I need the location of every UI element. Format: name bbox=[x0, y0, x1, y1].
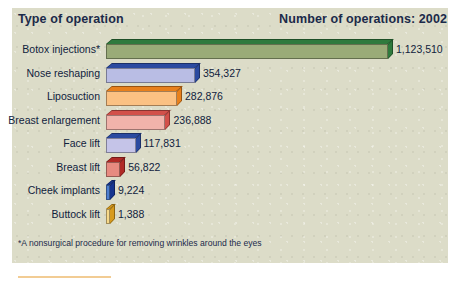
bar-3d[interactable] bbox=[106, 68, 195, 83]
bar-category-label: Face lift bbox=[0, 137, 100, 149]
bar-category-label: Liposuction bbox=[0, 90, 100, 102]
bar-value-label: 1,388 bbox=[118, 208, 144, 220]
chart-screenshot: Type of operation Number of operations: … bbox=[0, 0, 461, 287]
bar-side-face bbox=[110, 203, 115, 223]
bar-3d[interactable] bbox=[106, 185, 110, 200]
bar-side-face bbox=[110, 180, 115, 200]
bar-value-label: 56,822 bbox=[128, 161, 160, 173]
chart-row: Buttock lift1,388 bbox=[0, 203, 436, 225]
bar-value-label: 236,888 bbox=[173, 114, 211, 126]
bar-category-label: Cheek implants bbox=[0, 184, 100, 196]
bar-value-label: 9,224 bbox=[118, 184, 144, 196]
bar-value-label: 282,876 bbox=[185, 90, 223, 102]
bar-top-face bbox=[106, 110, 171, 115]
bar-front-face bbox=[106, 68, 195, 83]
bar-3d[interactable] bbox=[106, 138, 136, 153]
bar-3d[interactable] bbox=[106, 115, 165, 130]
chart-footnote: *A nonsurgical procedure for removing wr… bbox=[18, 238, 262, 248]
bar-top-face bbox=[106, 39, 394, 44]
chart-header: Type of operation Number of operations: … bbox=[0, 12, 461, 32]
decorative-orange-rule bbox=[18, 276, 111, 278]
bar-top-face bbox=[106, 86, 183, 91]
bar-side-face bbox=[388, 39, 393, 59]
chart-row: Face lift117,831 bbox=[0, 132, 436, 154]
bar-chart-plot-area: Botox injections*1,123,510Nose reshaping… bbox=[0, 38, 436, 228]
bar-value-label: 1,123,510 bbox=[396, 43, 443, 55]
chart-row: Nose reshaping354,327 bbox=[0, 62, 436, 84]
chart-row: Breast lift56,822 bbox=[0, 156, 436, 178]
bar-3d[interactable] bbox=[106, 91, 177, 106]
bar-category-label: Breast enlargement bbox=[0, 114, 100, 126]
chart-row: Cheek implants9,224 bbox=[0, 179, 436, 201]
column-header-number-of-operations: Number of operations: 2002 bbox=[279, 12, 447, 26]
bar-front-face bbox=[106, 91, 177, 106]
bar-top-face bbox=[106, 63, 201, 68]
bar-side-face bbox=[165, 109, 170, 129]
bar-front-face bbox=[106, 162, 120, 177]
column-header-type-of-operation: Type of operation bbox=[18, 12, 124, 26]
bar-value-label: 117,831 bbox=[144, 137, 181, 149]
chart-row: Breast enlargement236,888 bbox=[0, 109, 436, 131]
bar-side-face bbox=[136, 133, 141, 153]
bar-value-label: 354,327 bbox=[203, 67, 241, 79]
bar-category-label: Botox injections* bbox=[0, 43, 100, 55]
bar-side-face bbox=[120, 156, 125, 176]
bar-3d[interactable] bbox=[106, 44, 388, 59]
bar-category-label: Breast lift bbox=[0, 161, 100, 173]
bar-front-face bbox=[106, 115, 165, 130]
bar-front-face bbox=[106, 138, 136, 153]
bar-3d[interactable] bbox=[106, 209, 110, 224]
bar-front-face bbox=[106, 44, 388, 59]
bar-side-face bbox=[177, 86, 182, 106]
chart-row: Botox injections*1,123,510 bbox=[0, 38, 436, 60]
chart-row: Liposuction282,876 bbox=[0, 85, 436, 107]
bar-category-label: Nose reshaping bbox=[0, 67, 100, 79]
bar-category-label: Buttock lift bbox=[0, 208, 100, 220]
bar-3d[interactable] bbox=[106, 162, 120, 177]
